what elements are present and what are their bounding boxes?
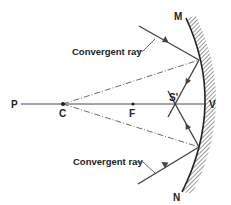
label-convergent-ray-lower: Convergent ray	[73, 156, 143, 167]
arrow-icon	[183, 122, 191, 130]
point-F	[131, 102, 134, 105]
label-N: N	[173, 192, 180, 203]
point-C	[61, 102, 65, 106]
label-convergent-ray-upper: Convergent ray	[72, 46, 142, 57]
arrow-icon	[161, 159, 170, 168]
label-V: V	[209, 99, 216, 110]
label-F: F	[129, 108, 135, 119]
mirror-diagram: P C F S' V M N Convergent ray Convergent…	[0, 0, 231, 205]
label-P: P	[11, 99, 18, 110]
label-M: M	[174, 11, 182, 22]
label-C: C	[59, 108, 66, 119]
incident-ray-upper	[139, 26, 199, 60]
arrow-icon	[183, 78, 191, 86]
label-S-prime: S'	[169, 92, 178, 103]
